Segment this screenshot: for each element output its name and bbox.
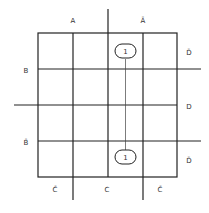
cell-r0-c2: 1 <box>115 44 136 58</box>
label-b: B <box>24 67 29 75</box>
label-c-bar-left: C̄ <box>53 185 58 194</box>
label-d-bar-bottom: D̄ <box>186 156 191 165</box>
label-b-bar: B̄ <box>24 138 29 147</box>
label-c: C <box>105 186 110 194</box>
grid <box>14 9 201 200</box>
label-d-bar-top: D̄ <box>186 48 191 57</box>
cell-r3-c2: 1 <box>115 150 136 164</box>
label-c-bar-right: C̄ <box>158 185 163 194</box>
karnaugh-map: 1 1 A Ā C̄ C C̄ B B̄ D̄ D D̄ <box>0 0 209 213</box>
label-a: A <box>71 17 76 25</box>
label-d: D <box>186 103 191 111</box>
cell-value: 1 <box>123 48 127 56</box>
label-a-bar: Ā <box>141 16 146 25</box>
cell-value: 1 <box>123 154 127 162</box>
